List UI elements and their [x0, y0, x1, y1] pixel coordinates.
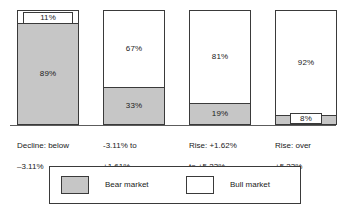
bar-3-segment-bull: 81%	[190, 11, 250, 103]
legend-swatch-bear-icon	[61, 176, 89, 194]
chart-legend: Bear market Bull market	[49, 166, 301, 204]
legend-label-bull-market: Bull market	[230, 181, 270, 189]
bar-2-bear-label: 33%	[126, 102, 142, 110]
category-label-4-line1: Rise: over	[275, 141, 346, 152]
category-label-2-line1: -3.11% to	[103, 141, 185, 152]
bar-decline-below-3-11[interactable]: 89% 11%	[17, 10, 79, 125]
bar-group-3[interactable]: 81% 19%	[189, 10, 251, 125]
stacked-bar-chart: 89% 11% 67% 33% 81%	[0, 0, 346, 214]
category-axis-labels: Decline: below –3.11% -3.11% to +1.61% R…	[0, 130, 346, 158]
axis-baseline	[10, 125, 336, 126]
bar-3-bear-label: 19%	[212, 110, 228, 118]
bar-4-bear-callout: 8%	[290, 113, 322, 124]
category-label-1-line1: Decline: below	[17, 141, 99, 152]
bar-1-bull-callout: 11%	[23, 12, 73, 24]
bar-rise-over-5-23[interactable]: 92% 8%	[275, 10, 337, 125]
legend-label-bear-market: Bear market	[105, 181, 149, 189]
bar-4-bear-label: 8%	[300, 115, 312, 123]
bar-3-segment-bear: 19%	[190, 103, 250, 124]
bar-rise-1-62-to-5-23[interactable]: 81% 19%	[189, 10, 251, 125]
category-label-3-line1: Rise: +1.62%	[189, 141, 271, 152]
bar-3-bull-label: 81%	[212, 53, 228, 61]
legend-item-bull-market[interactable]: Bull market	[186, 176, 270, 194]
bar-group-2[interactable]: 67% 33%	[103, 10, 165, 125]
bar-1-segment-bear: 89%	[18, 23, 78, 124]
bar-1-bear-label: 89%	[40, 70, 56, 78]
bar-2-segment-bull: 67%	[104, 11, 164, 87]
legend-item-bear-market[interactable]: Bear market	[61, 176, 149, 194]
bar-group-1[interactable]: 89% 11%	[17, 10, 79, 125]
bar-group-4[interactable]: 92% 8%	[275, 10, 337, 125]
bar-minus-3-11-to-plus-1-61[interactable]: 67% 33%	[103, 10, 165, 125]
bar-4-bull-label: 92%	[298, 59, 314, 67]
bar-4-segment-bull: 92%	[276, 11, 336, 115]
legend-swatch-bull-icon	[186, 176, 214, 194]
bar-1-bull-label: 11%	[40, 14, 56, 22]
bar-2-bull-label: 67%	[126, 45, 142, 53]
plot-area: 89% 11% 67% 33% 81%	[0, 0, 346, 128]
bar-2-segment-bear: 33%	[104, 87, 164, 124]
